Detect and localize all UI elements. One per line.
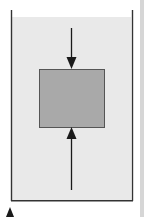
submerged-block <box>40 70 105 128</box>
buoyancy-diagram <box>0 0 144 217</box>
triangle-marker-icon <box>6 207 14 217</box>
diagram-canvas <box>0 0 144 217</box>
